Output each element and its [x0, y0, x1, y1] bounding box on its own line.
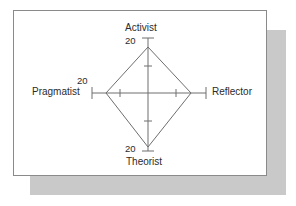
vertical-axis	[142, 38, 154, 151]
axis-label-theorist: Theorist	[126, 157, 162, 167]
axis-label-reflector: Reflector	[212, 87, 252, 97]
axis-label-pragmatist: Pragmatist	[32, 87, 80, 97]
tick-label-activist-max: 20	[125, 36, 136, 46]
tick-label-pragmatist-max: 20	[77, 76, 88, 86]
chart-panel: Activist Theorist Pragmatist Reflector 2…	[13, 10, 267, 176]
axis-label-activist: Activist	[125, 23, 157, 33]
tick-label-theorist-max: 20	[125, 144, 136, 154]
screenshot-root: Activist Theorist Pragmatist Reflector 2…	[0, 0, 296, 206]
